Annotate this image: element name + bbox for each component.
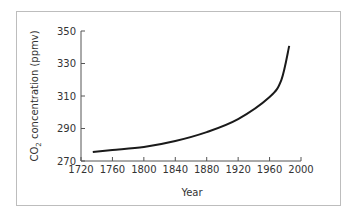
x-axis-label: Year xyxy=(180,187,203,198)
y-tick-label: 310 xyxy=(57,91,76,102)
y-tick-label: 330 xyxy=(57,58,76,69)
line-chart: 270290310330350 172017601800184018801920… xyxy=(0,0,354,215)
x-tick-label: 1920 xyxy=(225,164,250,175)
x-tick-label: 1960 xyxy=(257,164,282,175)
x-tick-label: 1880 xyxy=(194,164,219,175)
x-tick-label: 1840 xyxy=(163,164,188,175)
y-tick-label: 290 xyxy=(57,123,76,134)
x-tick-label: 1800 xyxy=(131,164,156,175)
x-tick-label: 2000 xyxy=(288,164,313,175)
x-tick-label: 1760 xyxy=(100,164,125,175)
y-tick-label: 350 xyxy=(57,26,76,37)
co2-curve xyxy=(93,46,289,152)
x-tick-label: 1720 xyxy=(68,164,93,175)
x-ticks: 17201760180018401880192019602000 xyxy=(68,157,313,175)
y-axis-label: CO2 concentration (ppmv) xyxy=(29,30,43,161)
